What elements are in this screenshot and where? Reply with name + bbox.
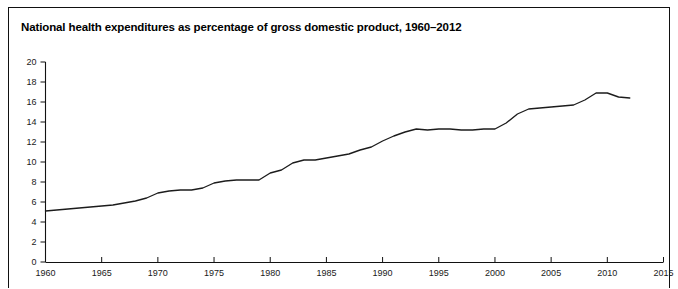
x-tick-label: 1960 [35,268,55,278]
x-tick-label: 1970 [148,268,168,278]
x-axis-ticks: 1960196519701975198019851990199520002005… [35,257,673,278]
line-chart-plot: 02468101214161820 1960196519701975198019… [0,0,678,289]
x-tick-label: 1990 [373,268,393,278]
y-tick-label: 4 [31,217,36,227]
y-tick-label: 8 [31,177,36,187]
x-tick-label: 2005 [541,268,561,278]
x-tick-label: 2015 [653,268,673,278]
y-tick-label: 2 [31,237,36,247]
y-tick-label: 16 [26,97,36,107]
x-tick-label: 1980 [260,268,280,278]
y-tick-label: 18 [26,77,36,87]
y-tick-label: 0 [31,257,36,267]
x-tick-label: 1985 [316,268,336,278]
y-tick-label: 20 [26,57,36,67]
y-tick-label: 14 [26,117,36,127]
y-tick-label: 6 [31,197,36,207]
x-tick-label: 2010 [597,268,617,278]
y-tick-label: 10 [26,157,36,167]
health-expenditure-line [46,93,630,211]
x-tick-label: 1995 [429,268,449,278]
y-tick-label: 12 [26,137,36,147]
chart-figure: National health expenditures as percenta… [0,0,678,289]
x-tick-label: 1965 [92,268,112,278]
x-tick-label: 1975 [204,268,224,278]
y-axis-ticks: 02468101214161820 [26,57,45,267]
x-tick-label: 2000 [485,268,505,278]
